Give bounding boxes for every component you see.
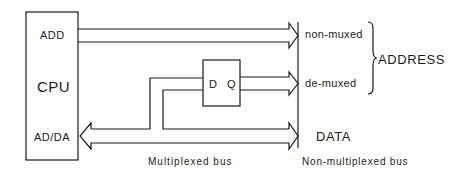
multiplexed-bus-caption: Multiplexed bus: [148, 157, 232, 167]
latch-q-label: Q: [227, 79, 236, 90]
data-bus-bidirectional-arrow: [80, 123, 298, 149]
demuxed-bus-arrow: [240, 72, 298, 95]
non-muxed-label: non-muxed: [305, 29, 363, 40]
address-brace: [368, 22, 377, 94]
latch-input-bus: [91, 78, 289, 129]
cpu-label: CPU: [37, 79, 70, 94]
non-multiplexed-bus-caption: Non-multiplexed bus: [302, 157, 408, 167]
de-muxed-label: de-muxed: [305, 78, 356, 89]
data-label: DATA: [316, 130, 351, 143]
cpu-port-add-label: ADD: [40, 30, 65, 41]
add-bus-arrow: [78, 23, 298, 48]
cpu-port-adda-label: AD/DA: [34, 132, 70, 143]
address-label: ADDRESS: [378, 53, 445, 66]
latch-d-label: D: [209, 79, 217, 90]
